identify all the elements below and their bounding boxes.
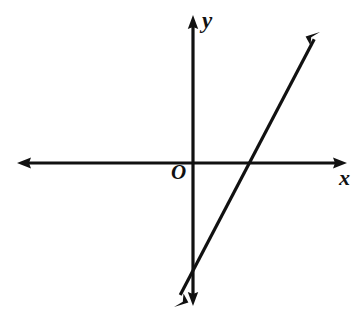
graph-canvas [0,0,362,314]
y-axis-label: y [202,9,212,32]
coordinate-plane-figure: y x O [0,0,362,314]
y-axis-bottom-arrowhead [188,292,198,306]
origin-label: O [171,162,186,183]
y-axis-top-arrowhead [188,15,198,29]
x-axis-left-arrowhead [17,158,31,169]
plotted-line [180,39,314,295]
x-axis-label: x [339,167,350,189]
